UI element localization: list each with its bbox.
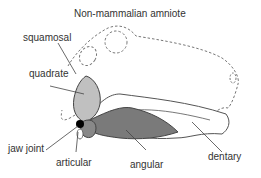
label-quadrate: quadrate: [29, 69, 68, 79]
label-angular: angular: [130, 160, 163, 170]
label-squamosal: squamosal: [23, 33, 71, 43]
fenestra-dashed: [76, 43, 100, 68]
label-articular: articular: [56, 158, 92, 168]
nostril-dashed: [230, 73, 236, 83]
label-jaw-joint: jaw joint: [8, 144, 44, 154]
label-dentary: dentary: [208, 152, 241, 162]
orbit-dashed: [105, 31, 127, 53]
